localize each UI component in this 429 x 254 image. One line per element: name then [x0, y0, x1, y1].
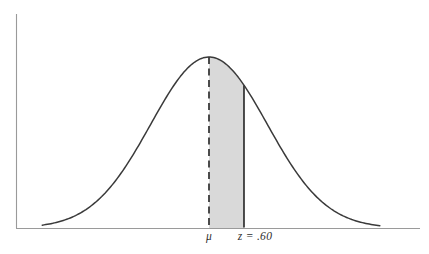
normal-distribution-figure: μ z = .60 — [0, 0, 429, 254]
shaded-probability-area — [209, 57, 244, 228]
z-value-label: z = .60 — [238, 231, 272, 243]
distribution-plot — [0, 0, 429, 254]
mean-label: μ — [206, 231, 212, 243]
